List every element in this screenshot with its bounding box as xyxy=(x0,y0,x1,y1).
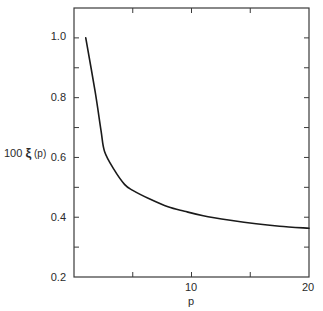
x-axis-title: p xyxy=(188,295,194,307)
y-tick-label-1.0: 1.0 xyxy=(51,30,66,42)
x-tick-label-20: 20 xyxy=(302,281,314,293)
y-tick-label-0.8: 0.8 xyxy=(51,91,66,103)
y-axis-title-suffix: (p) xyxy=(31,148,46,159)
y-tick-label-0.4: 0.4 xyxy=(51,211,66,223)
x-tick-label-10: 10 xyxy=(185,281,197,293)
y-axis-title-prefix: 100 xyxy=(4,147,25,159)
data-curve xyxy=(86,38,309,228)
y-axis-title: 100 ξ (p) xyxy=(4,145,46,160)
plot-frame xyxy=(74,8,309,277)
line-chart: 1.0 0.8 0.6 0.4 0.2 10 20 p 100 ξ (p) xyxy=(0,0,323,311)
tick-marks xyxy=(74,8,309,277)
y-tick-label-0.2: 0.2 xyxy=(51,271,66,283)
y-tick-label-0.6: 0.6 xyxy=(51,151,66,163)
